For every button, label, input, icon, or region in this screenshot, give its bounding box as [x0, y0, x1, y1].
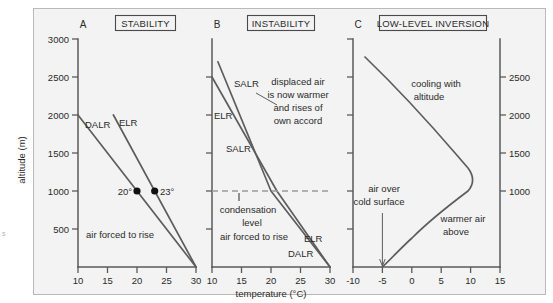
- panel-c-cooling-label-1: cooling with: [411, 78, 461, 89]
- panel-b-air-forced-label: air forced to rise: [220, 231, 288, 242]
- panel-a-xlabel-25: 25: [161, 275, 172, 286]
- panel-a-ylabel-2000: 2000: [48, 110, 69, 121]
- panel-b-elr-upper-label: ELR: [214, 110, 233, 121]
- panel-c-warmer-air-2: above: [443, 226, 469, 237]
- panel-c-xlabel-15: 15: [495, 275, 506, 286]
- panel-b-xlabel-30: 30: [325, 275, 336, 286]
- panel-b-salr-upper-label: SALR: [234, 78, 259, 89]
- panel-b-condensation-label-1: condensation: [220, 204, 277, 215]
- panel-c-air-over-cold-2: cold surface: [353, 196, 404, 207]
- panel-a-ylabel-500: 500: [53, 224, 69, 235]
- panel-c-warmer-air-1: warmer air: [440, 213, 486, 224]
- panel-c-cooling-label-2: altitude: [414, 91, 445, 102]
- panel-b-annotation-line1: displaced air: [271, 76, 324, 87]
- panel-a-point-elr: [151, 187, 158, 194]
- panel-b-xlabel-15: 15: [236, 275, 247, 286]
- panel-a-xlabel-30: 30: [191, 275, 202, 286]
- panel-b-xlabel-10: 10: [207, 275, 218, 286]
- panel-c-air-over-cold-1: air over: [368, 183, 400, 194]
- panel-a-xlabel-10: 10: [73, 275, 84, 286]
- panel-a-point-dalr: [133, 187, 140, 194]
- panel-c-xlabel-10: 10: [465, 275, 476, 286]
- panel-c-xlabel-5: 5: [439, 275, 444, 286]
- y-axis-title: altitude (m): [16, 136, 27, 184]
- panel-c-right-ylabel-1000: 1000: [509, 186, 530, 197]
- panel-a-ylabel-1500: 1500: [48, 148, 69, 159]
- panel-c-letter: C: [354, 19, 361, 30]
- panel-a-ylabel-1000: 1000: [48, 186, 69, 197]
- panel-b-salr-lower-label: SALR: [226, 143, 251, 154]
- panel-a-point-23-label: 23°: [160, 186, 175, 197]
- panel-a-letter: A: [80, 19, 87, 30]
- panel-a-dalr-label: DALR: [85, 119, 110, 130]
- panel-a-air-forced-label: air forced to rise: [86, 229, 154, 240]
- panel-b-annotation-line2: is now warmer: [267, 89, 328, 100]
- panel-c-xlabel-m5: -5: [378, 275, 386, 286]
- panel-a-point-20-label: 20°: [118, 186, 133, 197]
- figure-root: 3000 2500 2000 1500 1000 500 10 15 20 25…: [0, 0, 553, 303]
- panel-a-elr-label: ELR: [119, 117, 138, 128]
- panel-a-ylabel-2500: 2500: [48, 72, 69, 83]
- panel-b-xlabel-20: 20: [266, 275, 277, 286]
- panel-a-xlabel-15: 15: [102, 275, 113, 286]
- x-axis-title: temperature (°C): [236, 288, 307, 299]
- panel-c-xlabel-m10: -10: [346, 275, 360, 286]
- panel-a-title: STABILITY: [121, 18, 170, 29]
- panel-a-ylabel-3000: 3000: [48, 34, 69, 45]
- panel-a-xlabel-20: 20: [132, 275, 143, 286]
- panel-c-right-ylabel-1500: 1500: [509, 148, 530, 159]
- corner-mark: s: [2, 230, 6, 237]
- panel-b-title: INSTABILITY: [252, 18, 311, 29]
- panel-c-right-ylabel-2500: 2500: [509, 72, 530, 83]
- panel-b-elr-lower-label: ELR: [304, 233, 323, 244]
- panel-b-annotation-line3: and rises of: [273, 102, 322, 113]
- panel-b-xlabel-25: 25: [295, 275, 306, 286]
- panel-c-title: LOW-LEVEL INVERSION: [377, 18, 490, 29]
- panel-b-letter: B: [214, 19, 221, 30]
- panel-b-annotation-line4: own accord: [274, 115, 323, 126]
- panel-b-condensation-label-2: level: [242, 217, 262, 228]
- panel-c-xlabel-0: 0: [409, 275, 414, 286]
- panel-c-right-ylabel-2000: 2000: [509, 110, 530, 121]
- stability-diagram: 3000 2500 2000 1500 1000 500 10 15 20 25…: [0, 0, 553, 303]
- panel-b-dalr-label: DALR: [288, 248, 313, 259]
